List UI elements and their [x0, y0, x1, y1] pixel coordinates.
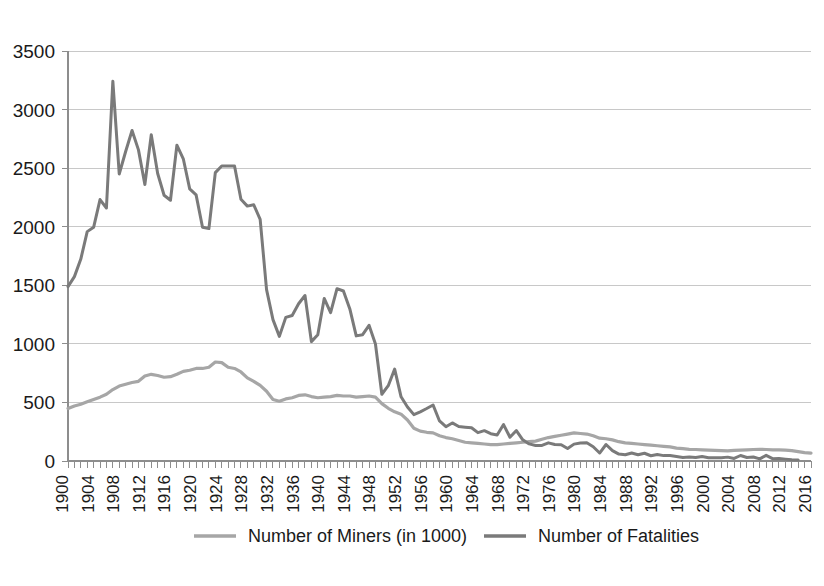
y-axis-label-2500: 2500: [13, 158, 55, 179]
x-axis-label-1940: 1940: [309, 475, 328, 513]
x-axis-label-1936: 1936: [284, 475, 303, 513]
x-axis-label-2000: 2000: [694, 475, 713, 513]
x-axis-label-1988: 1988: [617, 475, 636, 513]
legend-label-fatalities[interactable]: Number of Fatalities: [538, 526, 699, 546]
x-axis-label-1980: 1980: [565, 475, 584, 513]
x-axis-label-1996: 1996: [668, 475, 687, 513]
x-axis-label-2012: 2012: [770, 475, 789, 513]
x-axis-label-1944: 1944: [335, 475, 354, 513]
y-axis-label-3000: 3000: [13, 100, 55, 121]
x-axis-label-1952: 1952: [386, 475, 405, 513]
legend-label-miners[interactable]: Number of Miners (in 1000): [248, 526, 467, 546]
x-axis-label-1984: 1984: [591, 475, 610, 513]
line-chart: 3500300025002000150010005000 19001904190…: [0, 0, 824, 586]
x-axis-label-1928: 1928: [232, 475, 251, 513]
y-axis-label-1000: 1000: [13, 334, 55, 355]
x-axis-label-1976: 1976: [540, 475, 559, 513]
x-axis-label-2004: 2004: [719, 475, 738, 513]
x-axis-label-1960: 1960: [437, 475, 456, 513]
x-axis-label-1920: 1920: [181, 475, 200, 513]
x-axis-label-2016: 2016: [796, 475, 815, 513]
y-axis-label-2000: 2000: [13, 217, 55, 238]
y-axis-label-3500: 3500: [13, 41, 55, 62]
x-axis-label-2008: 2008: [745, 475, 764, 513]
x-axis-label-1948: 1948: [360, 475, 379, 513]
x-axis-label-1972: 1972: [514, 475, 533, 513]
y-axis-label-1500: 1500: [13, 275, 55, 296]
x-axis-label-1992: 1992: [642, 475, 661, 513]
x-axis-label-1900: 1900: [53, 475, 72, 513]
y-axis-label-0: 0: [44, 451, 55, 472]
chart-container: 3500300025002000150010005000 19001904190…: [0, 0, 824, 586]
x-axis-label-1932: 1932: [258, 475, 277, 513]
y-axis-label-500: 500: [23, 392, 55, 413]
x-axis-label-1908: 1908: [104, 475, 123, 513]
x-axis-label-1968: 1968: [489, 475, 508, 513]
x-axis-label-1904: 1904: [79, 475, 98, 513]
x-axis-label-1964: 1964: [463, 475, 482, 513]
x-axis-label-1912: 1912: [130, 475, 149, 513]
x-axis-label-1916: 1916: [155, 475, 174, 513]
chart-legend: Number of Miners (in 1000)Number of Fata…: [194, 526, 699, 546]
x-axis-label-1924: 1924: [207, 475, 226, 513]
x-axis-label-1956: 1956: [412, 475, 431, 513]
